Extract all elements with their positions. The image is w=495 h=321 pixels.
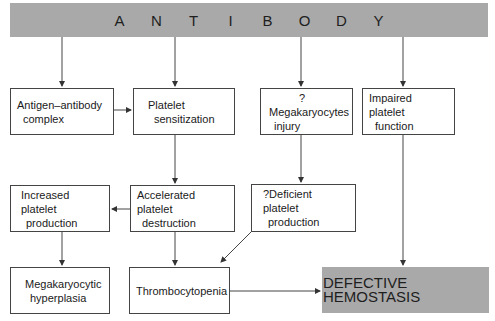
node-label: ?Deficient platelet	[263, 187, 349, 215]
node-label: production	[263, 215, 349, 229]
node-increased-platelet-production: Increased platelet production	[10, 185, 110, 232]
node-accelerated-platelet-destruction: Accelerated platelet destruction	[130, 185, 235, 232]
node-antigen-antibody-complex: Antigen–antibody complex	[10, 88, 114, 135]
node-impaired-platelet-function: Impaired platelet function	[362, 88, 455, 135]
node-label: production	[21, 216, 103, 230]
node-label: hyperplasia	[25, 291, 103, 305]
node-megakaryocytes-injury: ? Megakaryocytes injury	[260, 88, 353, 135]
node-defective-hemostasis: DEFECTIVE HEMOSTASIS	[322, 267, 489, 313]
node-label: complex	[17, 112, 107, 126]
node-thrombocytopenia: Thrombocytopenia	[129, 267, 230, 314]
arrow-deficient-to-thrombocytopenia	[221, 232, 251, 262]
node-label: Thrombocytopenia	[136, 284, 223, 298]
node-label: DEFECTIVE HEMOSTASIS	[323, 276, 488, 304]
node-label: Impaired platelet	[369, 91, 448, 119]
node-label: sensitization	[148, 112, 228, 126]
node-label: Antigen–antibody	[17, 98, 107, 112]
node-label: ?	[269, 91, 346, 105]
node-label: Increased platelet	[21, 188, 103, 216]
node-label: function	[369, 119, 448, 133]
node-label: destruction	[137, 216, 228, 230]
node-deficient-platelet-production: ?Deficient platelet production	[251, 184, 356, 232]
node-label: Platelet	[148, 98, 228, 112]
node-label: injury	[269, 119, 346, 133]
node-label: Accelerated platelet	[137, 188, 228, 216]
node-platelet-sensitization: Platelet sensitization	[133, 88, 235, 135]
node-label: Megakaryocytic	[25, 277, 103, 291]
node-label: Megakaryocytes	[269, 105, 346, 119]
node-megakaryocytic-hyperplasia: Megakaryocytic hyperplasia	[10, 267, 110, 314]
